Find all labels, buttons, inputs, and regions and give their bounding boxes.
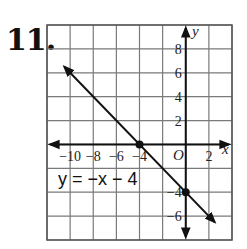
- coordinate-graph: xy −10−8−6−428642−4−6O y = −x − 4: [0, 0, 247, 249]
- svg-text:2: 2: [175, 114, 182, 129]
- svg-text:−8: −8: [86, 149, 101, 164]
- equation-label: y = −x − 4: [58, 169, 138, 189]
- grid: [47, 25, 232, 240]
- svg-text:−4: −4: [132, 149, 147, 164]
- svg-text:y: y: [190, 23, 199, 39]
- svg-text:x: x: [221, 141, 229, 157]
- svg-text:4: 4: [175, 90, 182, 105]
- svg-text:−4: −4: [167, 185, 182, 200]
- svg-text:6: 6: [175, 66, 182, 81]
- svg-text:−6: −6: [109, 149, 124, 164]
- svg-text:−10: −10: [59, 149, 81, 164]
- svg-text:2: 2: [205, 149, 212, 164]
- svg-text:8: 8: [175, 42, 182, 57]
- svg-text:O: O: [173, 147, 184, 163]
- svg-text:−6: −6: [167, 209, 182, 224]
